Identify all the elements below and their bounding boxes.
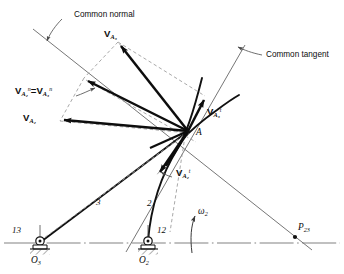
figure-canvas: Common normal Common tangent VA₃ VA₂n=VA… [0,0,344,274]
label-joint-12: 12 [157,226,166,235]
v-a2t-superscript: t [189,168,191,174]
label-vector-v-a3: VA₃ [104,29,117,40]
label-instant-center-p23: P23 [298,223,310,233]
pivot-o3 [30,225,50,255]
label-pivot-o3: O3 [31,256,41,266]
label-pivot-o2: O2 [139,256,149,266]
label-joint-13: 13 [12,226,21,235]
contact-point-a-dot [186,129,189,132]
label-link-3: 3 [96,198,101,207]
leader-lines [47,19,262,177]
label-omega-2: ω2 [198,207,208,217]
o3-subscript: 3 [38,259,41,266]
omega-symbol: ω [198,206,205,216]
omega-2-arrow [191,216,195,253]
label-common-normal: Common normal [74,11,135,19]
v-a2-subscript: A₂ [29,117,35,124]
omega-subscript: 2 [205,210,208,217]
o3-symbol: O [31,255,38,265]
pivot-o2 [138,225,158,255]
label-vector-v-a2: VA₂ [23,113,36,124]
p23-subscript: 23 [304,226,310,233]
o2-symbol: O [139,255,146,265]
label-vector-v-a3-t: VA₃t [207,107,222,118]
v-a3t-superscript: t [220,107,222,113]
instant-center-p23-dot [293,235,297,239]
label-link-2: 2 [147,199,152,208]
vn-right-superscript: n [49,86,52,92]
leader-common-normal [47,19,62,41]
o2-subscript: 2 [146,259,149,266]
body-2-profile-curve [148,78,202,241]
diagram-svg [0,0,344,274]
label-common-tangent: Common tangent [266,51,329,59]
label-vector-normal-equality: VA₂n=VA₃n [15,86,52,97]
v-a3-subscript: A₃ [110,33,116,40]
label-point-a: A [196,128,202,137]
label-vector-v-a2-t: VA₂t [176,168,191,179]
leader-normal-component [76,88,95,96]
